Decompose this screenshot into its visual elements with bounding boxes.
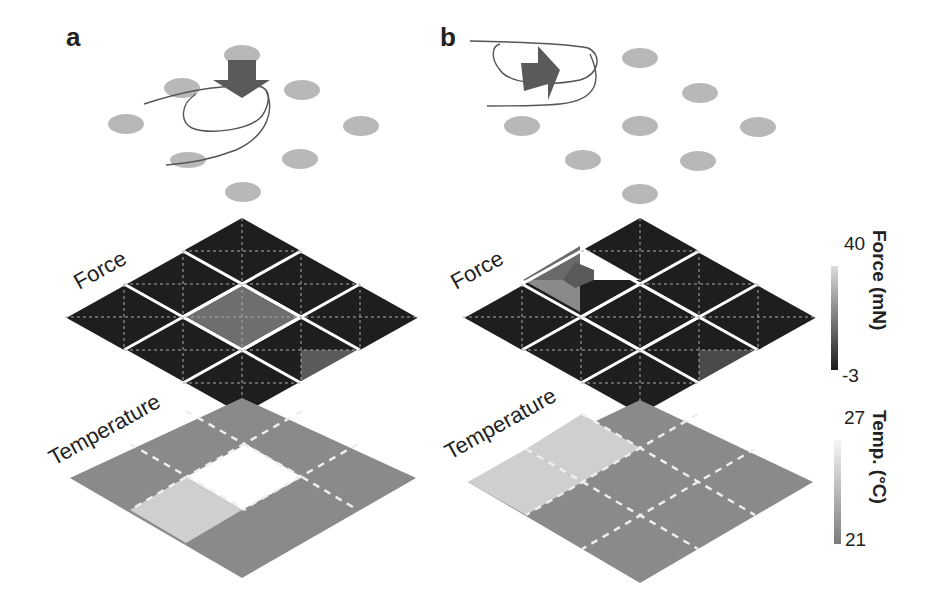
force-colorbar-max: 40 [844,233,865,254]
temperature-colorbar-min: 21 [845,529,866,550]
sensor-dot [622,184,658,204]
temperature-colorbar-title: Temp. (°C) [869,410,890,504]
force-colorbar-title: Force (mN) [869,230,890,330]
figure-canvas: a Force [0,0,940,603]
sensor-dot [108,114,144,134]
sensor-dot [682,83,718,103]
finger-icon [144,86,270,165]
panel-label-b: b [440,22,456,52]
sensor-dot [622,116,658,136]
temperature-colorbar-max: 27 [844,407,865,428]
temperature-grid-b [468,400,813,583]
force-layer-label-b: Force [446,245,507,294]
temperature-colorbar: 27 21 Temp. (°C) [834,407,890,550]
sensor-dot [504,116,540,136]
force-colorbar-gradient [831,266,838,370]
sensor-dot [284,80,320,100]
panel-label-a: a [66,22,81,52]
arrow-down-icon [213,60,270,98]
temperature-colorbar-gradient [834,440,841,544]
force-colorbar: 40 -3 Force (mN) [831,230,890,386]
sensor-dot [343,116,379,136]
panel-a: a Force [44,22,419,578]
arrow-right-icon [521,46,560,100]
sensor-dot [740,117,776,137]
force-colorbar-min: -3 [842,365,859,386]
sensor-dot [680,151,716,171]
sensor-dot [225,182,261,202]
force-grid-b [463,218,817,416]
sensor-dot [282,149,318,169]
panel-b: b Force [440,22,817,583]
sensor-dot [622,48,658,68]
sensor-dot [565,150,601,170]
